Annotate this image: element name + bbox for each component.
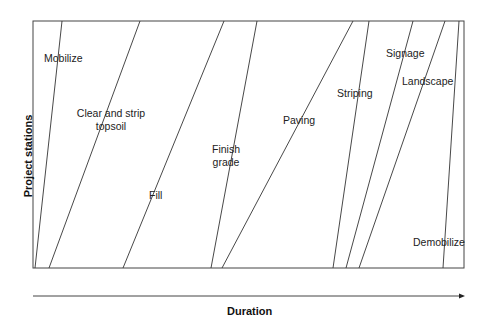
label-finish-line1: Finish — [208, 143, 244, 156]
label-landscape: Landscape — [402, 75, 453, 88]
label-demobilize: Demobilize — [413, 236, 465, 249]
y-axis-title: Project stations — [22, 106, 34, 206]
label-mobilize: Mobilize — [44, 52, 83, 65]
label-clear-line1: Clear and strip — [72, 107, 150, 120]
label-fill: Fill — [149, 189, 162, 202]
x-axis-title: Duration — [227, 305, 272, 317]
label-finish-grade: Finish grade — [208, 143, 244, 169]
label-finish-line2: grade — [208, 156, 244, 169]
activity-line-demobilize — [443, 21, 459, 268]
activity-line-striping — [333, 21, 369, 268]
duration-arrow-head — [459, 294, 465, 299]
label-clear-strip-topsoil: Clear and strip topsoil — [72, 107, 150, 133]
label-striping: Striping — [337, 87, 373, 100]
label-paving: Paving — [283, 114, 315, 127]
label-clear-line2: topsoil — [72, 120, 150, 133]
label-signage: Signage — [386, 47, 425, 60]
